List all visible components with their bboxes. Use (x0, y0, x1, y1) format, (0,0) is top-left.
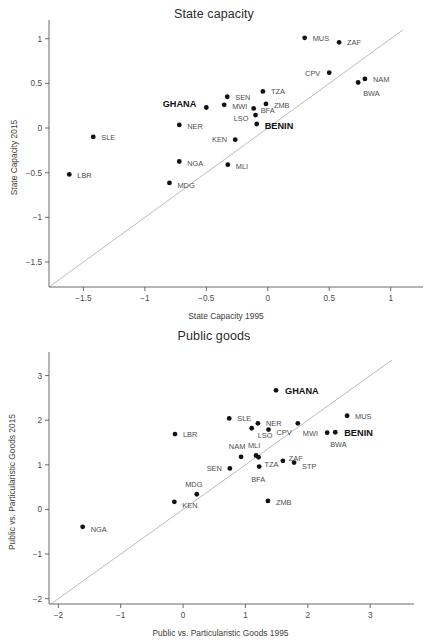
x-tick-label: −1 (116, 611, 126, 620)
y-tick-label: −0.5 (26, 169, 43, 178)
scatter-marker (265, 499, 270, 504)
data-point: MDG (185, 480, 202, 496)
y-axis-title: Public vs. Particularistic Goods 2015 (7, 414, 17, 550)
plot-area-state-capacity: −1.5−1−0.500.5110.50−0.5−1−1.5State Capa… (0, 0, 428, 322)
data-point: SEN (207, 464, 233, 473)
point-label-mdg: MDG (177, 181, 194, 190)
data-point: MUS (345, 412, 372, 421)
scatter-marker (274, 388, 279, 393)
x-tick-label: 1 (388, 294, 393, 303)
x-tick-label: 2 (306, 611, 311, 620)
point-label-sen: SEN (207, 464, 222, 473)
scatter-marker (173, 432, 178, 437)
data-point: GHANA (163, 99, 209, 109)
point-label-ner: NER (187, 122, 203, 131)
data-point: MWI (295, 421, 318, 438)
point-label-ghana: GHANA (163, 99, 197, 109)
scatter-marker (177, 123, 182, 128)
scatter-marker (172, 499, 177, 504)
y-tick-label: 0 (37, 124, 42, 133)
scatter-marker (67, 172, 72, 177)
data-point: STP (292, 460, 317, 470)
scatter-marker (280, 458, 285, 463)
scatter-marker (253, 113, 258, 118)
x-tick-label: −2 (54, 611, 64, 620)
data-point: MDG (167, 181, 195, 190)
data-point: TZA (260, 87, 284, 96)
y-tick-label: −2 (33, 595, 43, 604)
data-point: LBR (67, 171, 92, 180)
data-point: SLE (91, 133, 115, 142)
point-label-mli: MLI (248, 441, 260, 450)
x-tick-label: −1 (140, 294, 150, 303)
y-tick-label: −1 (33, 550, 43, 559)
y-tick-label: 3 (37, 372, 42, 381)
point-label-ken: KEN (182, 501, 197, 510)
scatter-marker (260, 89, 265, 94)
scatter-marker (362, 77, 367, 82)
data-point: SLE (227, 414, 251, 423)
data-point: BENIN (254, 121, 293, 131)
point-label-cpv: CPV (277, 428, 292, 437)
scatter-marker (239, 454, 244, 459)
data-point: KEN (172, 499, 198, 509)
x-tick-label: 0 (181, 611, 186, 620)
point-label-mli: MLI (236, 162, 248, 171)
scatter-marker (251, 106, 256, 111)
data-point: MLI (225, 162, 248, 171)
point-label-bwa: BWA (330, 440, 347, 449)
data-point: LBR (173, 430, 198, 439)
point-label-lbr: LBR (183, 430, 197, 439)
scatter-marker (345, 413, 350, 418)
point-label-nam: NAM (229, 442, 245, 451)
scatter-marker (225, 94, 230, 99)
x-tick-label: 0.5 (324, 294, 336, 303)
point-label-mus: MUS (313, 34, 329, 43)
scatter-marker (80, 524, 85, 529)
y-tick-label: 2 (37, 416, 42, 425)
scatter-marker (167, 181, 172, 186)
point-label-nam: NAM (373, 75, 389, 84)
y-axis-title: State Capacity 2015 (9, 119, 19, 195)
data-point: NAM (229, 442, 245, 459)
data-point: GHANA (274, 386, 319, 396)
y-tick-label: 0 (37, 505, 42, 514)
scatter-marker (333, 430, 338, 435)
scatter-marker (356, 80, 361, 85)
point-label-ken: KEN (212, 135, 227, 144)
x-tick-label: −0.5 (198, 294, 215, 303)
point-label-bfa: BFA (251, 475, 265, 484)
scatter-marker (302, 35, 307, 40)
scatter-marker (91, 135, 96, 140)
scatter-marker (325, 430, 330, 435)
data-point: SEN (225, 93, 251, 102)
scatter-marker (266, 427, 271, 432)
chart-state-capacity: State capacity −1.5−1−0.500.5110.50−0.5−… (0, 0, 428, 322)
identity-reference-line (49, 30, 403, 287)
point-label-sen: SEN (235, 93, 250, 102)
data-point: ZAF (337, 38, 362, 47)
data-point: MWI (222, 102, 248, 111)
point-label-sle: SLE (101, 133, 115, 142)
x-tick-label: 0 (266, 294, 271, 303)
point-label-bfa: BFA (261, 106, 275, 115)
data-point: NER (177, 122, 203, 131)
x-axis-title: Public vs. Particularistic Goods 1995 (153, 628, 289, 638)
data-point: NGA (80, 524, 106, 533)
scatter-marker (233, 137, 238, 142)
point-label-benin: BENIN (344, 428, 373, 438)
scatter-marker (194, 492, 199, 497)
identity-reference-line (51, 360, 392, 604)
scatter-marker (254, 122, 259, 127)
scatter-marker (327, 70, 332, 75)
data-point: MUS (302, 34, 329, 43)
scatter-marker (256, 455, 261, 460)
y-tick-label: 1 (37, 35, 42, 44)
data-point: ZMB (265, 498, 291, 507)
point-label-zmb: ZMB (276, 498, 292, 507)
x-axis-title: State Capacity 1995 (188, 311, 264, 321)
y-tick-label: 1 (37, 461, 42, 470)
point-label-stp: STP (302, 462, 316, 471)
scatter-marker (257, 464, 262, 469)
point-label-lbr: LBR (77, 171, 91, 180)
